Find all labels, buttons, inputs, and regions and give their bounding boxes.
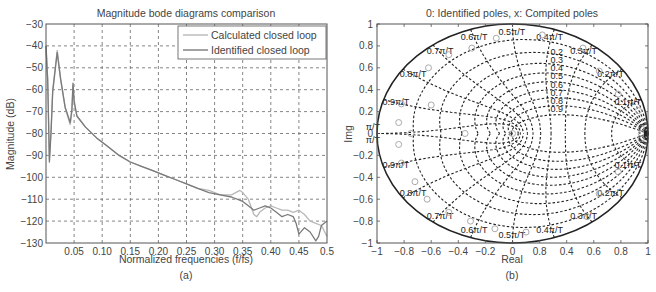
- y-tick-label: −100: [20, 172, 43, 183]
- frequency-label: 0.2π/T: [597, 188, 624, 198]
- y-tick-label: 0.8: [359, 40, 373, 51]
- pole-zero-chart: 0: Identified poles, x: Compited poles 1…: [342, 7, 651, 281]
- y-tick-label: −50: [26, 62, 43, 73]
- frequency-curve: [433, 134, 528, 223]
- frequency-label: 0.4π/T: [536, 225, 563, 235]
- x-tick-label: −0.6: [421, 246, 441, 257]
- y-tick-label: −0.4: [353, 172, 373, 183]
- y-tick-label: −0.6: [353, 194, 373, 205]
- x-tick-label: 0.4: [560, 246, 574, 257]
- frequency-label: 0.7π/T: [427, 46, 454, 56]
- frequency-label: 0.5π/T: [499, 27, 526, 37]
- y-tick-label: 0.4: [359, 84, 373, 95]
- frequency-label: 0.6π/T: [461, 225, 488, 235]
- y-tick-label: 1: [367, 19, 373, 30]
- pole-marker: [412, 179, 418, 185]
- x-tick-label: 0.8: [533, 246, 547, 257]
- chart-b-title: 0: Identified poles, x: Compited poles: [426, 7, 598, 19]
- chart-a-ylabel: Magnitude (dB): [4, 98, 16, 170]
- y-tick-label: −30: [26, 19, 43, 30]
- frequency-curve: [565, 134, 592, 223]
- pole-marker: [467, 218, 473, 224]
- y-tick-label: −120: [20, 216, 43, 227]
- chart-a-y-ticks: −30−40−50−60−70−80−90−100−110−120−130: [20, 19, 43, 249]
- damping-curve: [496, 134, 648, 178]
- chart-b-frame: [377, 24, 648, 243]
- chart-b-xlabel: Real: [501, 253, 523, 265]
- chart-b-caption: (b): [506, 269, 519, 281]
- chart-a-legend: Calculated closed loop Identified closed…: [178, 26, 326, 59]
- y-tick-label: 0.2: [359, 106, 373, 117]
- figure: Magnitude bode diagrams comparison −30−4…: [0, 0, 656, 292]
- unit-circle: [377, 24, 648, 243]
- y-tick-label: −60: [26, 84, 43, 95]
- y-tick-label: −90: [26, 150, 43, 161]
- frequency-label: 0.7π/T: [427, 211, 454, 221]
- frequency-label: 0.1π/T: [614, 97, 641, 107]
- pole-marker: [396, 141, 402, 147]
- legend-label-calculated: Calculated closed loop: [211, 29, 317, 41]
- legend-label-identified: Identified closed loop: [211, 44, 310, 56]
- pole-marker: [424, 196, 430, 202]
- frequency-label: 0.5π/T: [499, 230, 526, 240]
- frequency-label: 0.9π/T: [383, 97, 410, 107]
- frequency-label: 0.8π/T: [400, 69, 427, 79]
- chart-b-grid-labels: 0.20.30.40.50.60.70.80.90.1π/T0.2π/T0.3π…: [366, 27, 642, 241]
- chart-a-title: Magnitude bode diagrams comparison: [97, 7, 276, 19]
- y-tick-label: −110: [21, 194, 43, 205]
- frequency-label: 0.8π/T: [400, 188, 427, 198]
- frequency-label: 0.6π/T: [461, 32, 488, 42]
- y-tick-label: −0.2: [353, 150, 373, 161]
- x-tick-label: −0.4: [448, 246, 468, 257]
- y-tick-label: −130: [20, 238, 43, 249]
- y-tick-label: −70: [26, 106, 43, 117]
- x-tick-label: 0.5: [320, 246, 334, 257]
- pole-marker: [492, 226, 498, 232]
- x-tick-label: 0.40: [261, 246, 281, 257]
- pole-cluster: [644, 130, 648, 137]
- frequency-label: π/T: [366, 135, 381, 145]
- chart-a-caption: (a): [180, 269, 193, 281]
- x-tick-label: 1: [645, 246, 651, 257]
- bode-magnitude-chart: Magnitude bode diagrams comparison −30−4…: [4, 7, 334, 281]
- damping-label: 0.9: [550, 104, 563, 114]
- x-tick-label: 0.10: [92, 246, 112, 257]
- pole-marker: [396, 120, 402, 126]
- frequency-curve: [433, 45, 528, 134]
- y-tick-label: −0.8: [353, 216, 373, 227]
- x-tick-label: −1: [371, 246, 383, 257]
- frequency-label: 0.9π/T: [383, 160, 410, 170]
- x-tick-label: 0.8: [614, 246, 628, 257]
- frequency-curve: [565, 45, 592, 134]
- x-tick-label: 0.45: [289, 246, 309, 257]
- pole-marker: [428, 102, 434, 108]
- chart-b-poles: [396, 32, 648, 235]
- chart-a-xlabel: Normalized frequencies (f/fs): [119, 253, 253, 265]
- x-tick-label: −0.2: [476, 246, 496, 257]
- frequency-label: π/T: [366, 122, 381, 132]
- pole-marker: [462, 131, 468, 137]
- pole-marker: [493, 35, 499, 41]
- pole-marker: [408, 131, 414, 137]
- y-tick-label: −80: [26, 128, 43, 139]
- frequency-curve: [403, 69, 524, 133]
- x-tick-label: 0.6: [587, 246, 601, 257]
- chart-b-ylabel: Img: [342, 125, 354, 143]
- y-tick-label: −40: [26, 40, 43, 51]
- y-tick-label: 0.6: [359, 62, 373, 73]
- chart-b-zgrid: [377, 24, 648, 243]
- x-tick-label: −0.8: [394, 246, 414, 257]
- x-tick-label: 0.05: [64, 246, 84, 257]
- pole-marker: [469, 45, 475, 51]
